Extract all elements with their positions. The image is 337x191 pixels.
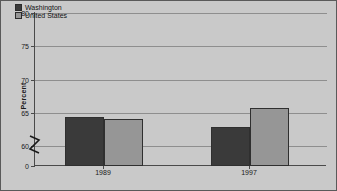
- chart-legend: WashingtonUnited States: [15, 4, 67, 19]
- y-tick-mark: [31, 166, 35, 167]
- legend-swatch-icon: [15, 12, 22, 19]
- gridline: [35, 80, 327, 81]
- gridline: [35, 13, 327, 14]
- bar-washington-1997: [211, 127, 250, 166]
- y-tick-label: 75: [21, 43, 29, 50]
- bar-united-states-1989: [104, 119, 143, 166]
- y-tick-mark: [31, 46, 35, 47]
- y-axis-title: Percent: [20, 82, 27, 109]
- plot-area: 06065707580: [34, 12, 326, 166]
- x-tick-label: 1989: [95, 169, 111, 176]
- axis-break-icon: [27, 134, 42, 160]
- legend-item-united-states: United States: [15, 12, 67, 19]
- y-tick-label: 70: [21, 76, 29, 83]
- legend-label: United States: [25, 12, 67, 19]
- bar-washington-1989: [65, 117, 104, 166]
- legend-label: Washington: [25, 4, 62, 11]
- y-tick-label: 0: [25, 163, 29, 170]
- gridline: [35, 46, 327, 47]
- x-tick-mark: [103, 166, 104, 169]
- x-tick-label: 1997: [241, 169, 257, 176]
- y-tick-mark: [31, 113, 35, 114]
- legend-item-washington: Washington: [15, 4, 67, 11]
- legend-swatch-icon: [15, 4, 22, 11]
- bar-chart-figure: Percent 06065707580 WashingtonUnited Sta…: [0, 0, 337, 191]
- bar-united-states-1997: [250, 108, 289, 166]
- x-tick-mark: [249, 166, 250, 169]
- y-tick-label: 65: [21, 109, 29, 116]
- y-tick-mark: [31, 80, 35, 81]
